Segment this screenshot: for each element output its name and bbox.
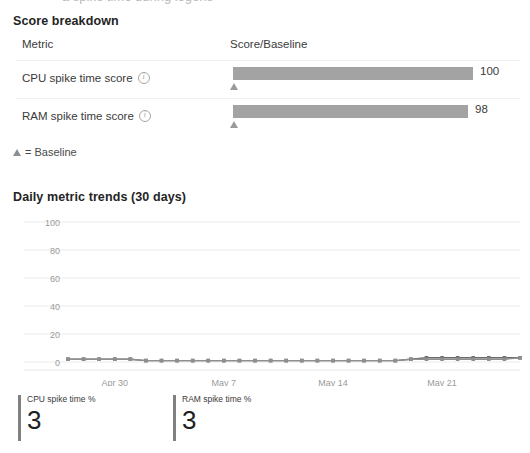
series-data-point — [191, 359, 195, 363]
y-axis-tick-label: 60 — [50, 274, 60, 284]
y-axis-tick-label: 20 — [50, 330, 60, 340]
clipped-heading-above: a spike time during logons — [0, 0, 530, 7]
baseline-marker-icon — [230, 121, 238, 128]
series-data-point — [425, 357, 429, 361]
series-data-point — [487, 357, 491, 361]
series-data-point — [456, 357, 460, 361]
series-data-point — [284, 359, 288, 363]
score-breakdown-title: Score breakdown — [13, 14, 119, 28]
series-data-point — [362, 359, 366, 363]
score-bar-value: 98 — [475, 103, 488, 115]
row-divider — [16, 60, 520, 61]
row-divider — [16, 98, 520, 99]
series-data-point — [378, 359, 382, 363]
column-header-score-baseline: Score/Baseline — [230, 38, 307, 50]
metric-name-cell: RAM spike time score — [22, 110, 151, 122]
kpi-accent-bar — [173, 395, 176, 441]
y-axis-tick-label: 100 — [45, 218, 60, 228]
score-breakdown-table: Metric Score/Baseline CPU spike time sco… — [0, 36, 530, 136]
table-header-row: Metric Score/Baseline — [0, 36, 530, 60]
metric-name-cell: CPU spike time score — [22, 72, 150, 84]
series-data-point — [331, 359, 335, 363]
table-row: RAM spike time score 98 — [0, 98, 530, 136]
table-row: CPU spike time score 100 — [0, 60, 530, 98]
series-data-point — [269, 359, 273, 363]
triangle-up-icon — [13, 149, 21, 156]
series-data-point — [113, 357, 117, 361]
x-axis-tick-label: May 14 — [318, 378, 348, 386]
series-data-point — [253, 359, 257, 363]
kpi-tile-ram-spike-time: RAM spike time % 3 — [173, 394, 266, 436]
y-axis-tick-label: 40 — [50, 302, 60, 312]
kpi-tiles: CPU spike time % 3 RAM spike time % 3 — [18, 394, 266, 436]
series-data-point — [97, 357, 101, 361]
kpi-accent-bar — [18, 395, 21, 441]
series-data-point — [222, 359, 226, 363]
score-bar-value: 100 — [480, 65, 499, 77]
daily-metric-trends-chart: 020406080100Apr 30May 7May 14May 21 — [0, 208, 530, 386]
series-data-point — [129, 357, 133, 361]
column-header-metric: Metric — [22, 38, 53, 50]
score-bar-fill — [233, 67, 473, 80]
series-data-point — [316, 359, 320, 363]
metric-label-text: CPU spike time score — [22, 72, 133, 84]
series-data-point — [347, 359, 351, 363]
series-data-point — [175, 359, 179, 363]
series-data-point — [394, 359, 398, 363]
series-data-point — [518, 356, 522, 360]
clipped-heading-text: a spike time during logons — [62, 0, 213, 4]
info-icon[interactable] — [139, 110, 151, 122]
series-data-point — [440, 357, 444, 361]
series-data-point — [160, 359, 164, 363]
x-axis-tick-label: May 7 — [212, 378, 237, 386]
x-axis-tick-label: Apr 30 — [101, 378, 128, 386]
kpi-value: 3 — [182, 404, 266, 436]
series-data-point — [300, 359, 304, 363]
baseline-legend: = Baseline — [13, 146, 77, 158]
info-icon[interactable] — [138, 72, 150, 84]
baseline-legend-text: = Baseline — [25, 146, 77, 158]
series-data-point — [144, 359, 148, 363]
y-axis-tick-label: 80 — [50, 246, 60, 256]
series-data-point — [82, 357, 86, 361]
score-bar-cell: 98 — [233, 105, 476, 127]
series-data-point — [238, 359, 242, 363]
series-data-point — [409, 357, 413, 361]
y-axis-tick-label: 0 — [55, 358, 60, 368]
series-data-point — [503, 357, 507, 361]
series-data-point — [471, 357, 475, 361]
series-data-point — [66, 357, 70, 361]
metric-label-text: RAM spike time score — [22, 110, 134, 122]
trend-line-chart-svg: 020406080100Apr 30May 7May 14May 21 — [0, 208, 530, 386]
kpi-value: 3 — [27, 404, 111, 436]
baseline-marker-icon — [230, 83, 238, 90]
series-data-point — [206, 359, 210, 363]
kpi-tile-cpu-spike-time: CPU spike time % 3 — [18, 394, 111, 436]
x-axis-tick-label: May 21 — [427, 378, 457, 386]
score-bar-cell: 100 — [233, 67, 476, 89]
score-bar-fill — [233, 105, 468, 118]
daily-metric-trends-title: Daily metric trends (30 days) — [13, 190, 186, 204]
